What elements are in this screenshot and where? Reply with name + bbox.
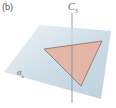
symmetry-diagram: (b) C3 σh xyxy=(0,0,116,108)
c3-axis-label: C3 xyxy=(68,1,78,14)
plane-subscript: h xyxy=(21,74,24,79)
panel-label: (b) xyxy=(2,2,13,12)
axis-symbol: C xyxy=(68,1,75,12)
sigma-h-label: σh xyxy=(17,67,24,79)
diagram-svg xyxy=(0,0,116,108)
axis-subscript: 3 xyxy=(75,8,78,14)
